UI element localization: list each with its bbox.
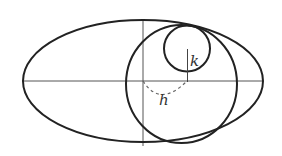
ellipse-diagram: k h xyxy=(0,0,282,156)
label-h: h xyxy=(159,91,169,109)
label-k: k xyxy=(190,52,199,70)
background xyxy=(0,0,282,156)
